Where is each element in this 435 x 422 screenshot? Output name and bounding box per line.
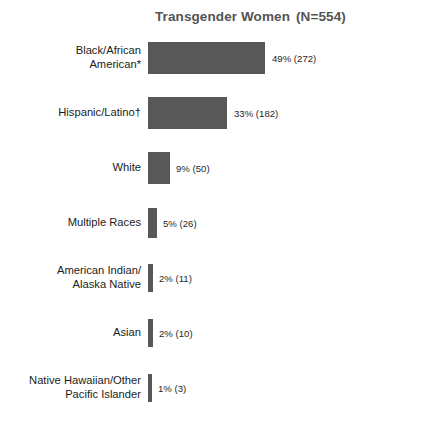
bar-row: American Indian/ Alaska Native 2% (11) bbox=[0, 250, 435, 305]
category-label: Hispanic/Latino† bbox=[0, 106, 148, 119]
category-label: American Indian/ Alaska Native bbox=[0, 264, 148, 291]
bar-fill bbox=[148, 374, 152, 402]
bar-track: 9% (50) bbox=[148, 140, 435, 195]
bar-value-label: 2% (10) bbox=[159, 327, 193, 338]
bar-track: 1% (3) bbox=[148, 360, 435, 415]
bar-value-label: 2% (11) bbox=[159, 272, 192, 283]
bar-fill bbox=[148, 264, 153, 292]
bar-value-label: 9% (50) bbox=[176, 162, 210, 173]
bar-chart: Transgender Women(N=554) Black/African A… bbox=[0, 0, 435, 422]
bar-fill bbox=[148, 319, 153, 347]
chart-title-sample-size: (N=554) bbox=[296, 9, 346, 24]
bar-row: White 9% (50) bbox=[0, 140, 435, 195]
bar-track: 33% (182) bbox=[148, 85, 435, 140]
bar-fill bbox=[148, 97, 227, 129]
category-label: Multiple Races bbox=[0, 216, 148, 229]
bar-row: Black/African American* 49% (272) bbox=[0, 30, 435, 85]
bar-value-label: 33% (182) bbox=[234, 107, 278, 118]
bar-fill bbox=[148, 208, 157, 238]
category-label: Native Hawaiian/Other Pacific Islander bbox=[0, 374, 148, 401]
bar-fill bbox=[148, 42, 265, 74]
bar-value-label: 49% (272) bbox=[272, 52, 316, 63]
category-label: Asian bbox=[0, 326, 148, 339]
bar-row: Native Hawaiian/Other Pacific Islander 1… bbox=[0, 360, 435, 415]
bar-rows-container: Black/African American* 49% (272) Hispan… bbox=[0, 30, 435, 415]
bar-track: 49% (272) bbox=[148, 30, 435, 85]
bar-track: 2% (10) bbox=[148, 305, 435, 360]
bar-track: 2% (11) bbox=[148, 250, 435, 305]
chart-title-text: Transgender Women bbox=[155, 9, 290, 24]
bar-track: 5% (26) bbox=[148, 195, 435, 250]
category-label: Black/African American* bbox=[0, 44, 148, 71]
bar-row: Asian 2% (10) bbox=[0, 305, 435, 360]
category-label: White bbox=[0, 161, 148, 174]
bar-row: Hispanic/Latino† 33% (182) bbox=[0, 85, 435, 140]
bar-value-label: 1% (3) bbox=[158, 382, 186, 393]
chart-title: Transgender Women(N=554) bbox=[155, 9, 346, 24]
bar-row: Multiple Races 5% (26) bbox=[0, 195, 435, 250]
bar-value-label: 5% (26) bbox=[163, 217, 197, 228]
bar-fill bbox=[148, 152, 170, 184]
